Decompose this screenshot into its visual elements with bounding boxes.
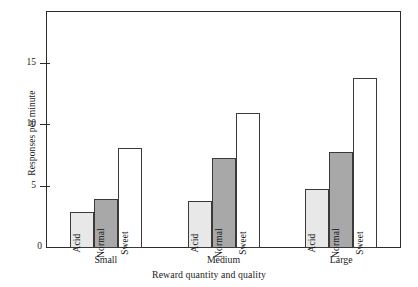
bar-chart: Responses per minute 15105 0 AcidNormalS… [0,0,418,287]
y-axis-tick-label: 10 [27,118,37,128]
bar-label-normal: Normal [331,228,341,258]
y-axis-title: Responses per minute [27,43,37,223]
y-axis-tick-label: 15 [27,57,37,67]
bar-large-normal: Normal [329,152,353,248]
bar-medium-acid: Acid [188,201,212,248]
bars-layer: AcidNormalSweetAcidNormalSweetAcidNormal… [47,12,400,248]
bar-label-acid: Acid [72,234,82,253]
y-axis-zero-label: 0 [30,241,42,251]
bar-label-acid: Acid [307,234,317,253]
bar-label-normal: Normal [214,228,224,258]
bar-medium-sweet: Sweet [236,113,260,248]
bar-label-sweet: Sweet [238,231,248,255]
bar-small-sweet: Sweet [118,148,142,248]
bar-label-sweet: Sweet [355,231,365,255]
bar-label-normal: Normal [96,228,106,258]
bar-label-sweet: Sweet [120,231,130,255]
bar-label-acid: Acid [190,234,200,253]
bar-small-acid: Acid [70,212,94,248]
group-label-large: Large [282,254,400,265]
bar-small-normal: Normal [94,199,118,248]
bar-large-sweet: Sweet [353,78,377,249]
y-axis-tick-label: 5 [31,180,36,190]
bar-large-acid: Acid [305,189,329,248]
x-axis-title: Reward quantity and quality [0,269,418,280]
bar-medium-normal: Normal [212,158,236,248]
